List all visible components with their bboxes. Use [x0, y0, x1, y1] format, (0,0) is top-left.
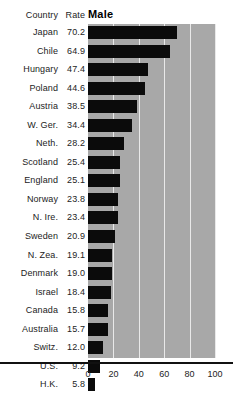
bar [88, 249, 112, 262]
country-label: Hungary [0, 63, 58, 76]
rate-value: 15.7 [60, 323, 85, 336]
chart-rows: Japan70.2Chile64.9Hungary47.4Poland44.6A… [0, 24, 233, 395]
chart-row: Australia15.7 [0, 321, 233, 340]
bar [88, 341, 103, 354]
bar [88, 119, 132, 132]
bar [88, 211, 118, 224]
country-label: N. Zea. [0, 249, 58, 262]
bar [88, 230, 115, 243]
country-label: Norway [0, 193, 58, 206]
rate-value: 25.4 [60, 156, 85, 169]
rate-value: 23.4 [60, 211, 85, 224]
chart-row: Canada15.8 [0, 302, 233, 321]
x-tick-40: 40 [134, 368, 144, 381]
country-label: W. Ger. [0, 119, 58, 132]
rate-value: 64.9 [60, 45, 85, 58]
x-tick-80: 80 [185, 368, 195, 381]
chart-row: Israel18.4 [0, 284, 233, 303]
rate-value: 23.8 [60, 193, 85, 206]
country-label: Scotland [0, 156, 58, 169]
bar [88, 26, 177, 39]
bar [88, 45, 170, 58]
bar [88, 100, 137, 113]
bar [88, 267, 112, 280]
rate-value: 28.2 [60, 137, 85, 150]
chart-row: Japan70.2 [0, 24, 233, 43]
chart-row: N. Ire.23.4 [0, 209, 233, 228]
chart-row: W. Ger.34.4 [0, 117, 233, 136]
bar [88, 137, 124, 150]
country-label: N. Ire. [0, 211, 58, 224]
chart-row: England25.1 [0, 172, 233, 191]
rate-value: 18.4 [60, 286, 85, 299]
country-label: Austria [0, 100, 58, 113]
chart-title-male: Male [88, 8, 113, 21]
column-header-rate: Rate [60, 9, 85, 22]
rate-value: 19.1 [60, 249, 85, 262]
chart-row: Scotland25.4 [0, 154, 233, 173]
country-label: Poland [0, 82, 58, 95]
chart-row: Austria38.5 [0, 98, 233, 117]
country-label: Australia [0, 323, 58, 336]
rate-value: 12.0 [60, 341, 85, 354]
country-label: Sweden [0, 230, 58, 243]
x-tick-0: 0 [85, 368, 90, 381]
country-label: England [0, 174, 58, 187]
country-label: Israel [0, 286, 58, 299]
bar [88, 63, 148, 76]
x-tick-100: 100 [207, 368, 222, 381]
bar [88, 156, 120, 169]
chart-row: Poland44.6 [0, 80, 233, 99]
rate-value: 15.8 [60, 304, 85, 317]
country-label: Neth. [0, 137, 58, 150]
bar [88, 286, 111, 299]
rate-value: 38.5 [60, 100, 85, 113]
country-label: Chile [0, 45, 58, 58]
chart-row: Switz.12.0 [0, 339, 233, 358]
chart-row: N. Zea.19.1 [0, 247, 233, 266]
chart-row: Hungary47.4 [0, 61, 233, 80]
country-label: Japan [0, 26, 58, 39]
country-label: Denmark [0, 267, 58, 280]
chart-row: Neth.28.2 [0, 135, 233, 154]
x-tick-60: 60 [159, 368, 169, 381]
chart-row: Denmark19.0 [0, 265, 233, 284]
bar [88, 323, 108, 336]
bar [88, 82, 145, 95]
chart-row: Norway23.8 [0, 191, 233, 210]
x-axis-tick-labels: 020406080100 [0, 368, 233, 382]
chart-row: Chile64.9 [0, 43, 233, 62]
country-label: Switz. [0, 341, 58, 354]
rate-value: 47.4 [60, 63, 85, 76]
x-axis-line [0, 362, 233, 364]
rate-value: 44.6 [60, 82, 85, 95]
country-label: Canada [0, 304, 58, 317]
bar [88, 174, 120, 187]
bar [88, 193, 118, 206]
rate-value: 70.2 [60, 26, 85, 39]
bar [88, 304, 108, 317]
chart-row: Sweden20.9 [0, 228, 233, 247]
column-header-country: Country [0, 9, 58, 22]
rate-value: 20.9 [60, 230, 85, 243]
column-header-row: Country Rate Male [0, 9, 233, 22]
rate-value: 19.0 [60, 267, 85, 280]
rate-value: 34.4 [60, 119, 85, 132]
rate-value: 25.1 [60, 174, 85, 187]
x-tick-20: 20 [108, 368, 118, 381]
